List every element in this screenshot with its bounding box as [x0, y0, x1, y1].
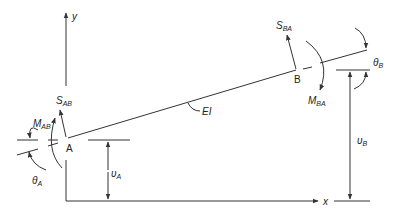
- ei-label: EI: [202, 106, 212, 117]
- displacement-b-label: υB: [357, 135, 368, 147]
- displacement-a-label: υA: [111, 168, 122, 180]
- moment-ba-label: MBA: [308, 95, 326, 107]
- moment-ab-label: MAB: [33, 118, 51, 130]
- theta-b-label: θB: [373, 57, 383, 69]
- node-b-label: B: [294, 74, 301, 85]
- node-a: A SAB MAB θA υA: [17, 95, 130, 199]
- y-axis-label: y: [71, 11, 78, 22]
- ei-leader: [188, 103, 200, 111]
- theta-a-label: θA: [32, 175, 42, 187]
- node-b: B SBA MBA θB υB: [276, 20, 383, 199]
- beam-diagram: y x EI A SAB MAB θA υA: [0, 0, 397, 214]
- x-axis-label: x: [322, 196, 329, 207]
- x-axis: x: [66, 196, 370, 207]
- shear-ab-label: SAB: [56, 95, 72, 107]
- shear-ba-label: SBA: [276, 20, 292, 32]
- node-a-label: A: [66, 143, 73, 154]
